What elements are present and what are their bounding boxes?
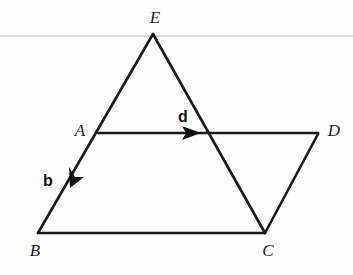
geometry-figure: E A D B C d b (0, 0, 353, 275)
vector-b-arrowhead (69, 167, 84, 188)
segment-c-d (265, 134, 318, 233)
vector-label-d: d (178, 109, 188, 125)
point-label-a: A (75, 122, 85, 139)
point-label-e: E (150, 9, 160, 26)
point-label-c: C (262, 242, 273, 259)
point-label-b: B (30, 242, 40, 259)
vector-label-b: b (43, 173, 53, 189)
diagram-canvas (0, 0, 353, 275)
point-label-d: D (328, 122, 340, 139)
